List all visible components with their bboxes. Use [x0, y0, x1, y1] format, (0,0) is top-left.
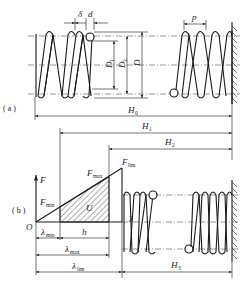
label-h: h: [82, 227, 87, 237]
label-F: F: [39, 175, 46, 185]
svg-text:0: 0: [135, 110, 138, 116]
fixed-wall-b: [232, 180, 237, 262]
wire-section-compressed-bottom: [185, 245, 193, 253]
label-lambda-lim: λ: [71, 261, 76, 271]
svg-text:max: max: [70, 249, 80, 255]
label-lambda-min: λ: [40, 227, 45, 237]
label-lambda-max: λ: [64, 244, 69, 254]
spring-coils-right: [170, 30, 232, 104]
free-spring-view: δ d p D 1 D 2 D ( a ) H 0: [3, 9, 240, 120]
label-origin: O: [26, 222, 33, 232]
label-Fmin: F: [39, 197, 46, 207]
fixed-wall-a: [232, 22, 237, 104]
compressed-coils-right: [185, 192, 232, 254]
label-Flim: F: [121, 157, 128, 167]
svg-text:2: 2: [172, 142, 175, 148]
label-H1: H: [141, 121, 149, 131]
part-a-tag: ( a ): [3, 104, 16, 113]
wire-section-compressed-top: [149, 191, 157, 199]
wire-section-bottom: [170, 89, 178, 97]
svg-text:2: 2: [122, 59, 128, 62]
label-H3: H: [170, 260, 178, 270]
svg-text:min: min: [46, 202, 55, 208]
label-H0: H: [127, 105, 135, 115]
label-H2: H: [164, 137, 172, 147]
label-p: p: [191, 12, 197, 22]
svg-text:3: 3: [178, 265, 181, 271]
part-b-tag: ( b ): [12, 206, 26, 215]
svg-text:lim: lim: [128, 162, 136, 168]
load-diagram-view: H 1 H 2 F O U F min F max F lim ( b ) λ …: [12, 104, 240, 278]
svg-text:1: 1: [109, 59, 115, 62]
label-lambda: λ: [128, 214, 133, 224]
svg-text:lim: lim: [77, 266, 85, 272]
label-D: D: [132, 59, 142, 67]
label-delta: δ: [78, 9, 83, 19]
svg-text:min: min: [46, 232, 55, 238]
wire-section-top: [86, 33, 94, 41]
label-U: U: [86, 203, 93, 213]
label-d: d: [88, 9, 93, 19]
spring-diagram: δ d p D 1 D 2 D ( a ) H 0: [0, 0, 247, 288]
compressed-coils-left: λ: [124, 191, 157, 254]
svg-text:1: 1: [149, 126, 152, 132]
energy-area-U: [60, 177, 109, 222]
label-Fmax: F: [86, 168, 93, 178]
svg-text:max: max: [93, 173, 103, 179]
